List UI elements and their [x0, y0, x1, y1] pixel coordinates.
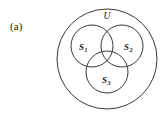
set-circle-s3	[86, 51, 128, 93]
set-label-s1-subscript: 1	[85, 47, 88, 53]
universe-circle	[57, 9, 157, 109]
universe-label: U	[104, 11, 112, 21]
set-label-s3-base: S	[102, 75, 107, 85]
set-label-s3-subscript: 3	[107, 80, 111, 86]
set-label-s1-base: S	[79, 42, 84, 52]
venn-diagram-figure: (a) U S1 S2 S3	[0, 0, 163, 119]
set-label-s3: S3	[102, 75, 111, 86]
set-label-s2: S2	[124, 42, 133, 53]
set-label-s2-subscript: 2	[129, 47, 133, 53]
set-circle-s2	[101, 25, 143, 67]
venn-diagram-canvas: U S1 S2 S3	[0, 0, 163, 119]
set-label-s1: S1	[79, 42, 88, 53]
set-label-s2-base: S	[124, 42, 129, 52]
